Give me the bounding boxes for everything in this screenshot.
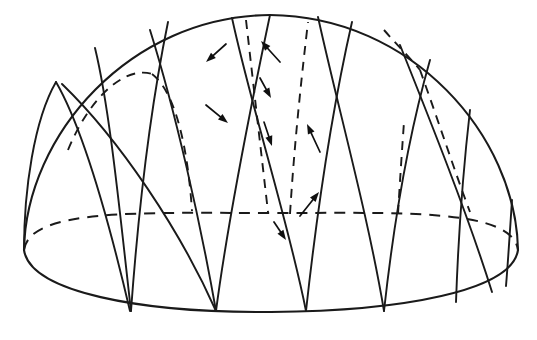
arrow-5-head — [265, 135, 272, 146]
arc-h4 — [290, 22, 308, 214]
arc-v6 — [150, 30, 216, 311]
arc-v5 — [131, 22, 168, 311]
arrow-8-head — [277, 230, 286, 240]
equator-ellipse — [24, 213, 518, 250]
arc-v7 — [216, 15, 270, 311]
arrow-3-head — [263, 88, 271, 98]
arc-v12 — [400, 45, 492, 292]
visible-arc-group — [24, 15, 512, 311]
arc-h2 — [152, 74, 192, 211]
hemisphere-diagram — [0, 0, 537, 340]
arc-v8 — [232, 18, 306, 311]
arrow-6-head — [307, 124, 314, 135]
arc-v3 — [95, 48, 131, 311]
figure-root — [0, 0, 537, 340]
arc-v11 — [384, 60, 430, 311]
base-rim — [24, 250, 518, 312]
dome-outline — [24, 15, 518, 250]
arc-v14 — [506, 200, 512, 286]
equator-group — [24, 213, 518, 250]
arc-v10 — [318, 17, 384, 311]
